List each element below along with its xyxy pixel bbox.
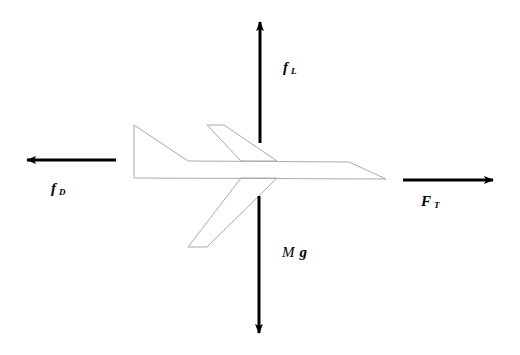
free-body-diagram: fL fD FT Mg <box>0 0 520 355</box>
drag-label: fD <box>51 180 66 197</box>
weight-label: Mg <box>281 244 308 260</box>
thrust-label: FT <box>420 193 440 210</box>
airplane-lower-wing <box>188 178 277 247</box>
lift-label: fL <box>283 59 297 76</box>
airplane-upper-wing <box>207 125 277 161</box>
